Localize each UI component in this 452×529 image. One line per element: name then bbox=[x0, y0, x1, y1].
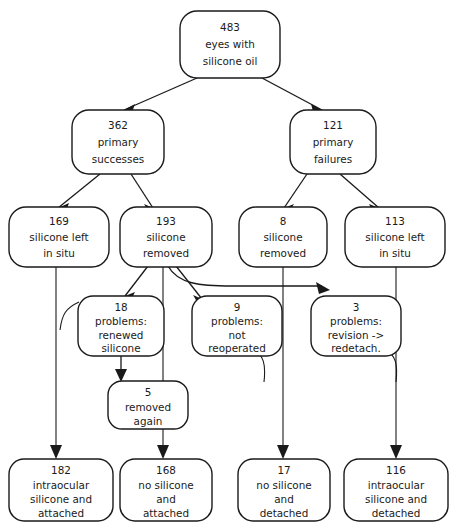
node-root-line-2: silicone oil bbox=[203, 55, 258, 67]
node-outcome-intraocular-detached: 116 intraocular silicone and detached bbox=[344, 459, 448, 521]
node-removed-again-line-2: again bbox=[134, 415, 163, 427]
node-failure-silicone-left-line-0: 113 bbox=[385, 215, 405, 227]
node-problems-not-reoperated-line-3: reoperated bbox=[208, 342, 265, 354]
node-outcome-intraocular-attached: 182 intraocular silicone and attached bbox=[9, 459, 113, 521]
node-outcome-no-silicone-attached-line-0: 168 bbox=[156, 464, 176, 476]
node-success-silicone-removed: 193 silicone removed bbox=[120, 207, 212, 267]
node-success-silicone-left: 169 silicone left in situ bbox=[9, 207, 109, 267]
node-failure-silicone-left-line-1: silicone left bbox=[365, 231, 424, 243]
node-primary-successes-line-2: successes bbox=[92, 153, 144, 165]
node-outcome-intraocular-attached-line-0: 182 bbox=[51, 464, 71, 476]
edge-failure-left-to-outcome-intraocular-detached bbox=[390, 266, 402, 459]
node-primary-successes-line-1: primary bbox=[98, 136, 139, 148]
node-outcome-intraocular-attached-line-2: silicone and bbox=[30, 493, 92, 505]
node-outcome-no-silicone-attached-line-1: no silicone bbox=[138, 479, 193, 491]
node-outcome-intraocular-attached-line-1: intraocular bbox=[33, 479, 90, 491]
node-removed-again-line-0: 5 bbox=[145, 386, 152, 398]
node-problems-not-reoperated-line-2: not bbox=[228, 329, 245, 341]
node-success-silicone-left-line-0: 169 bbox=[49, 215, 69, 227]
node-problems-renewed-line-3: silicone bbox=[101, 342, 140, 354]
node-failure-silicone-removed-line-0: 8 bbox=[280, 215, 287, 227]
node-problems-renewed: 18 problems: renewed silicone bbox=[78, 296, 164, 356]
node-problems-not-reoperated-line-1: problems: bbox=[211, 315, 263, 327]
node-outcome-no-silicone-attached-line-2: and bbox=[156, 493, 176, 505]
node-failure-silicone-left-line-2: in situ bbox=[379, 247, 411, 259]
node-outcome-no-silicone-detached-line-0: 17 bbox=[277, 464, 290, 476]
node-problems-renewed-line-2: renewed bbox=[99, 329, 144, 341]
node-outcome-intraocular-detached-line-0: 116 bbox=[386, 464, 406, 476]
flowchart-diagram: 483 eyes with silicone oil 362 primary s… bbox=[0, 0, 452, 529]
node-outcome-no-silicone-detached-line-2: and bbox=[274, 493, 294, 505]
node-problems-renewed-line-1: problems: bbox=[95, 315, 147, 327]
edge-removed-to-outcome-no-silicone-attached bbox=[157, 266, 169, 459]
edge-problems-renewed-merge bbox=[60, 302, 79, 330]
flowchart-svg: 483 eyes with silicone oil 362 primary s… bbox=[0, 0, 452, 529]
node-problems-revision: 3 problems: revision -> redetach. bbox=[311, 296, 401, 356]
node-primary-successes-line-0: 362 bbox=[108, 119, 128, 131]
node-outcome-no-silicone-attached: 168 no silicone and attached bbox=[120, 459, 212, 521]
node-primary-failures-line-1: primary bbox=[313, 136, 354, 148]
node-problems-revision-line-0: 3 bbox=[353, 301, 360, 313]
node-success-silicone-removed-line-1: silicone bbox=[146, 231, 185, 243]
node-success-silicone-removed-line-0: 193 bbox=[156, 215, 176, 227]
node-root-line-0: 483 bbox=[220, 21, 240, 33]
node-outcome-intraocular-detached-line-3: detached bbox=[372, 507, 421, 519]
node-problems-not-reoperated: 9 problems: not reoperated bbox=[192, 296, 282, 356]
node-success-silicone-removed-line-2: removed bbox=[143, 247, 189, 259]
node-outcome-no-silicone-detached-line-3: detached bbox=[260, 507, 309, 519]
node-failure-silicone-left: 113 silicone left in situ bbox=[345, 207, 445, 267]
node-outcome-no-silicone-detached-line-1: no silicone bbox=[256, 479, 311, 491]
node-failure-silicone-removed: 8 silicone removed bbox=[239, 207, 327, 267]
node-removed-again-line-1: removed bbox=[125, 401, 171, 413]
node-failure-silicone-removed-line-2: removed bbox=[260, 247, 306, 259]
node-problems-revision-line-3: redetach. bbox=[331, 342, 380, 354]
node-outcome-intraocular-attached-line-3: attached bbox=[38, 507, 84, 519]
node-outcome-intraocular-detached-line-2: silicone and bbox=[365, 493, 427, 505]
node-problems-revision-line-1: problems: bbox=[330, 315, 382, 327]
node-primary-failures-line-0: 121 bbox=[323, 119, 343, 131]
node-success-silicone-left-line-2: in situ bbox=[43, 247, 75, 259]
node-removed-again: 5 removed again bbox=[108, 381, 188, 429]
node-problems-revision-line-2: revision -> bbox=[328, 329, 384, 341]
node-outcome-no-silicone-detached: 17 no silicone and detached bbox=[238, 459, 330, 521]
node-primary-failures-line-2: failures bbox=[314, 153, 352, 165]
node-root-line-1: eyes with bbox=[205, 38, 255, 50]
node-root: 483 eyes with silicone oil bbox=[180, 11, 280, 78]
node-problems-renewed-line-0: 18 bbox=[114, 301, 127, 313]
edge-failure-removed-to-outcome-no-silicone-detached bbox=[277, 266, 289, 459]
node-primary-successes: 362 primary successes bbox=[72, 110, 164, 174]
edge-problems-renewed-to-removed-again bbox=[115, 355, 127, 382]
node-outcome-no-silicone-attached-line-3: attached bbox=[143, 507, 189, 519]
edge-removed-to-problems-revision bbox=[168, 266, 330, 294]
node-problems-not-reoperated-line-0: 9 bbox=[234, 301, 241, 313]
node-failure-silicone-removed-line-1: silicone bbox=[263, 231, 302, 243]
node-outcome-intraocular-detached-line-1: intraocular bbox=[368, 479, 425, 491]
edge-silicone-left-to-outcome-attached bbox=[50, 266, 62, 459]
node-success-silicone-left-line-1: silicone left bbox=[29, 231, 88, 243]
node-primary-failures: 121 primary failures bbox=[290, 110, 376, 174]
